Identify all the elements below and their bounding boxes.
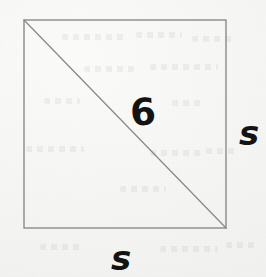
right-side-length-label: s bbox=[239, 116, 259, 150]
bottom-side-length-label: s bbox=[111, 241, 131, 275]
diagonal-line bbox=[24, 20, 226, 228]
square-diagram-svg bbox=[0, 0, 266, 277]
diagonal-length-label: 6 bbox=[129, 93, 157, 132]
geometry-figure: 6 s s bbox=[0, 0, 266, 277]
